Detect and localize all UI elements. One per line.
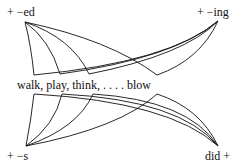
s-connections	[26, 94, 157, 146]
ed-connections	[25, 22, 157, 75]
label-s: + −s	[7, 150, 28, 162]
label-words: walk, play, think, . . . . blow	[17, 79, 151, 91]
label-did: did +	[205, 150, 230, 162]
label-ing: + −ing	[197, 6, 229, 18]
ing-connections	[34, 21, 218, 75]
label-ed: + −ed	[7, 6, 35, 18]
morphology-diagram: + −ed + −ing walk, play, think, . . . . …	[0, 0, 245, 166]
